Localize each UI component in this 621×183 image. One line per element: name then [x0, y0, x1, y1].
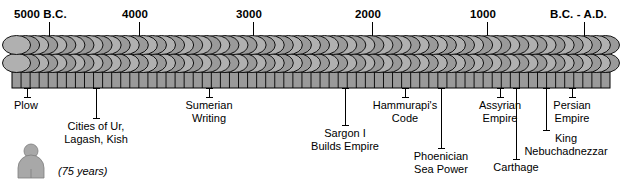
event-label-carthage: Carthage — [206, 161, 621, 174]
leader-line-hammurapis-code — [405, 88, 406, 98]
event-label-king-nebuchadnezzar: KingNebuchadnezzar — [256, 132, 621, 157]
timeline-band — [0, 0, 621, 92]
leader-line-persian-empire — [572, 88, 573, 98]
event-label-line: Persian — [262, 99, 621, 112]
timeline-figure: 5000 B.C.4000300020001000B.C. - A.D. Plo… — [0, 0, 621, 183]
event-label-line: Carthage — [206, 161, 621, 174]
event-label-persian-empire: PersianEmpire — [262, 99, 621, 124]
event-label-line: King — [256, 132, 621, 145]
legend-caption: (75 years) — [58, 165, 108, 177]
event-label-line: Nebuchadnezzar — [256, 145, 621, 158]
disc — [2, 36, 30, 55]
legend-person-figure-icon — [14, 142, 54, 182]
disc-row-top — [2, 36, 619, 55]
disc-row-middle — [2, 54, 619, 73]
event-label-line: Empire — [262, 112, 621, 125]
leader-line-plow — [27, 88, 28, 98]
disc — [2, 54, 30, 73]
leader-line-sumerian-writing — [209, 88, 210, 98]
leader-line-assyrian-empire — [500, 88, 501, 98]
